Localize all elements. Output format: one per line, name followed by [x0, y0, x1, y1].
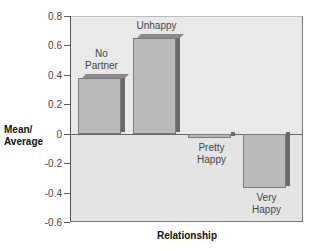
- bar-side: [121, 76, 125, 132]
- category-label: PrettyHappy: [182, 142, 242, 166]
- y-axis-label-line-1: Mean/: [4, 124, 43, 136]
- y-tick: [64, 75, 70, 76]
- bar: [243, 134, 286, 188]
- y-tick-label: 0.8: [48, 11, 62, 22]
- bar: [133, 38, 176, 134]
- bar: [188, 134, 231, 138]
- y-tick-label: -0.6: [45, 217, 62, 228]
- bar-top: [137, 34, 184, 38]
- y-tick: [64, 163, 70, 164]
- category-label: VeryHappy: [237, 192, 297, 216]
- y-axis-label-line-2: Average: [4, 136, 43, 148]
- y-tick-label: 0: [56, 128, 62, 139]
- y-tick: [64, 104, 70, 105]
- y-tick-label: 0.4: [48, 69, 62, 80]
- bar-side: [231, 132, 235, 136]
- y-axis-label: Mean/ Average: [4, 124, 43, 148]
- y-tick: [64, 193, 70, 194]
- x-axis-label: Relationship: [0, 230, 314, 241]
- bar-side: [286, 132, 290, 186]
- bar-side: [176, 36, 180, 132]
- y-tick: [64, 222, 70, 223]
- y-tick-label: 0.2: [48, 99, 62, 110]
- y-tick: [64, 16, 70, 17]
- y-tick-label: 0.6: [48, 40, 62, 51]
- category-label: Unhappy: [127, 20, 187, 32]
- y-tick: [64, 45, 70, 46]
- bar: [78, 78, 121, 134]
- y-tick-label: -0.2: [45, 158, 62, 169]
- y-tick-label: -0.4: [45, 187, 62, 198]
- bar-top: [82, 74, 129, 78]
- category-label: NoPartner: [72, 48, 132, 72]
